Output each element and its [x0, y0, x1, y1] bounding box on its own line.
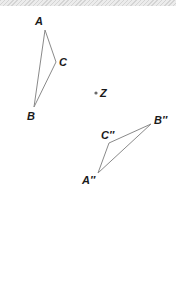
center-point-z: [94, 91, 97, 94]
diagram-canvas: [0, 0, 176, 293]
label-b: B: [27, 111, 35, 122]
label-a-double-prime: A″: [82, 175, 95, 186]
triangle-abc: [34, 30, 56, 107]
label-z: Z: [100, 88, 107, 99]
label-b-double-prime: B″: [154, 115, 167, 126]
label-c: C: [59, 57, 67, 68]
label-a: A: [35, 16, 43, 27]
label-c-double-prime: C″: [101, 130, 114, 141]
